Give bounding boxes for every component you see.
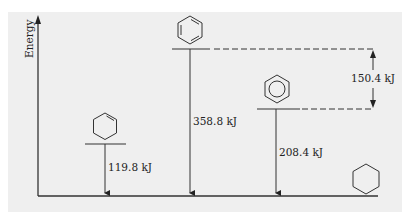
cyclohexene-level: 119.8 kJ xyxy=(85,113,152,193)
energy-axis: Energy xyxy=(23,15,41,196)
kekule-benzene-level: 358.8 kJ xyxy=(172,16,237,193)
kekule-benzene-icon xyxy=(178,16,202,44)
cyclohexene-energy-label: 119.8 kJ xyxy=(108,161,152,173)
resonance-energy-label: 150.4 kJ xyxy=(351,72,395,84)
resonance-energy-bracket: 150.4 kJ xyxy=(214,49,395,109)
cyclohexane-icon xyxy=(353,164,379,194)
energy-axis-label: Energy xyxy=(23,20,35,58)
cyclohexene-icon xyxy=(94,113,117,140)
bracket-down-arrow-icon xyxy=(370,100,376,108)
energy-diagram: Energy 119.8 kJ 358.8 kJ 208.4 kJ xyxy=(0,0,410,220)
aromatic-benzene-icon xyxy=(265,75,289,103)
axis-arrowhead-icon xyxy=(35,15,41,24)
bracket-up-arrow-icon xyxy=(370,50,376,58)
benzene-level: 208.4 kJ xyxy=(257,75,323,193)
kekule-benzene-energy-label: 358.8 kJ xyxy=(193,115,237,127)
benzene-energy-label: 208.4 kJ xyxy=(279,146,323,158)
